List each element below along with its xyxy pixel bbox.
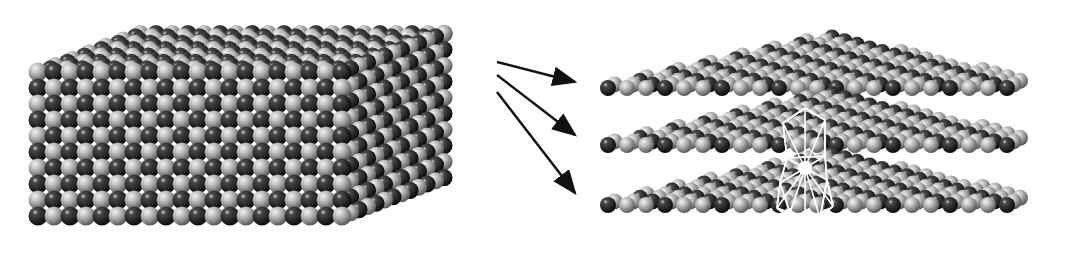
atomic-layer	[600, 87, 1028, 153]
lattice-figure	[0, 0, 1085, 276]
atomic-layers	[600, 30, 1028, 213]
decomposition-arrows	[497, 62, 575, 193]
atomic-layer	[600, 30, 1028, 96]
bulk-crystal-block	[29, 25, 453, 225]
lattice-diagram	[0, 0, 1085, 276]
